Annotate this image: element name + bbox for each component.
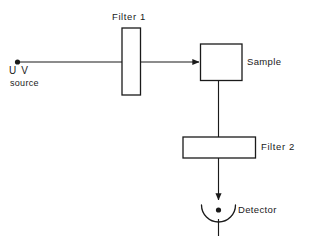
uv-source-label: U V source [9, 65, 39, 89]
uv-source-label-line2: source [9, 77, 39, 89]
sample-box [201, 44, 243, 81]
uv-source-label-line1: U V [9, 65, 39, 77]
detector-dot [216, 207, 221, 212]
filter2-box [183, 137, 256, 158]
sample-label: Sample [247, 56, 281, 67]
uv-spectrometer-diagram: Filter 1 Sample Filter 2 Detector U V so… [0, 0, 316, 244]
filter2-label: Filter 2 [261, 141, 295, 152]
filter1-box [122, 28, 141, 95]
filter1-label: Filter 1 [112, 11, 146, 22]
detector-label: Detector [238, 204, 277, 215]
